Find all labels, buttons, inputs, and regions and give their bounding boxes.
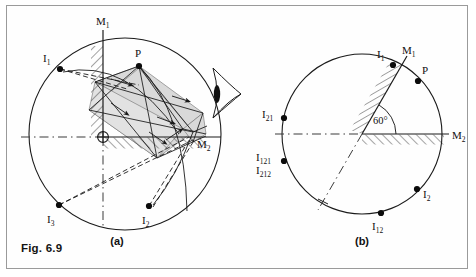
- label-I3-a: I3: [47, 213, 55, 228]
- point-I1-b: [390, 62, 396, 68]
- label-m2-a: M2: [197, 138, 211, 153]
- figure-svg: M1 M2 P I1 I2 I3 (a): [7, 6, 469, 270]
- point-I3: [56, 202, 62, 208]
- center-marker-icon: [97, 131, 109, 143]
- point-I1: [57, 66, 63, 72]
- label-I1-b: I1: [377, 48, 385, 63]
- mirror-m2b-hatching: [362, 135, 444, 145]
- label-I212-b: I212: [256, 164, 271, 179]
- label-m2-b: M2: [452, 129, 466, 144]
- point-I2-b: [414, 186, 420, 192]
- point-I21-b: [281, 115, 287, 121]
- label-m1-a: M1: [96, 15, 110, 30]
- figure-caption: Fig. 6.9: [21, 242, 62, 254]
- panel-a: M1 M2 P I1 I2 I3 (a): [21, 15, 241, 247]
- mirror-m1-hatching: [91, 46, 103, 137]
- label-I21-b: I21: [262, 108, 273, 123]
- eye-icon: [213, 68, 241, 118]
- panel-a-caption: (a): [110, 235, 124, 247]
- label-I1-a: I1: [43, 52, 51, 67]
- mirror-m1b-axis-extension: [318, 134, 362, 210]
- label-angle-60: 60°: [373, 115, 388, 126]
- point-I121-b: [281, 158, 287, 164]
- label-P-a: P: [135, 47, 141, 59]
- label-I2-b: I2: [423, 188, 431, 203]
- panel-b-caption: (b): [355, 235, 369, 247]
- label-m1-b: M1: [402, 44, 416, 59]
- label-P-b: P: [422, 64, 428, 76]
- point-I12-b: [378, 210, 384, 216]
- point-P-b: [415, 78, 421, 84]
- label-I2-a: I2: [142, 214, 150, 229]
- point-I2: [146, 203, 152, 209]
- label-I12-b: I12: [372, 220, 383, 235]
- panel-b: I1 M1 P M2 60° I21 I121 I212 I2 I1: [256, 44, 466, 247]
- point-P: [136, 63, 142, 69]
- figure-frame: M1 M2 P I1 I2 I3 (a): [6, 5, 468, 269]
